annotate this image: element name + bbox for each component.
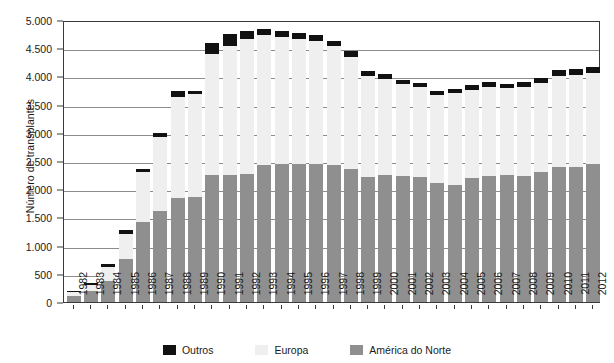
chart-legend: Outros Europa América do Norte: [0, 344, 614, 356]
bar-segment-outros: [378, 74, 392, 80]
x-tick-label-1990: 1990: [215, 272, 227, 312]
bar-segment-outros: [482, 82, 496, 87]
bar-1996: [309, 20, 323, 302]
plot-area: [63, 21, 600, 303]
bar-1989: [188, 20, 202, 302]
bar-segment-europa: [465, 90, 479, 178]
bar-segment-outros: [205, 43, 219, 54]
bar-1997: [327, 20, 341, 302]
x-tick-mark: [454, 305, 455, 309]
bar-2004: [448, 20, 462, 302]
y-tick-label: 2.000: [0, 184, 52, 196]
bar-segment-outros: [136, 169, 150, 172]
x-tick-mark: [73, 305, 74, 309]
bar-1990: [205, 20, 219, 302]
bar-segment-europa: [378, 79, 392, 175]
bar-segment-europa: [327, 46, 341, 165]
x-tick-label-1984: 1984: [111, 272, 123, 312]
x-tick-mark: [315, 305, 316, 309]
x-tick-label-1988: 1988: [181, 272, 193, 312]
x-tick-mark: [107, 305, 108, 309]
bar-segment-europa: [552, 76, 566, 167]
bar-segment-outros: [223, 34, 237, 46]
x-tick-label-1994: 1994: [285, 272, 297, 312]
bar-segment-europa: [136, 172, 150, 223]
bar-2010: [552, 20, 566, 302]
bar-segment-outros: [292, 33, 306, 39]
bar-segment-europa: [430, 95, 444, 183]
x-tick-label-1987: 1987: [163, 272, 175, 312]
bar-2007: [500, 20, 514, 302]
x-tick-mark: [384, 305, 385, 309]
bar-segment-outros: [361, 71, 375, 76]
y-tick-label: 0: [0, 297, 52, 309]
legend-item-outros: Outros: [163, 344, 214, 356]
y-tick-label: 1.500: [0, 212, 52, 224]
bar-segment-outros: [153, 133, 167, 137]
y-tick-label: 3.500: [0, 100, 52, 112]
legend-swatch-outros: [163, 345, 176, 355]
bar-segment-outros: [430, 91, 444, 95]
bar-1984: [101, 20, 115, 302]
x-tick-label-1989: 1989: [198, 272, 210, 312]
bar-segment-outros: [413, 83, 427, 88]
bar-segment-europa: [119, 234, 133, 259]
y-tick-label: 5.000: [0, 15, 52, 27]
bar-segment-europa: [188, 94, 202, 197]
bar-segment-europa: [275, 37, 289, 164]
bar-segment-outros: [552, 70, 566, 76]
bar-segment-europa: [240, 39, 254, 174]
x-tick-mark: [350, 305, 351, 309]
bar-segment-outros: [327, 41, 341, 46]
x-tick-mark: [142, 305, 143, 309]
x-tick-mark: [246, 305, 247, 309]
x-tick-label-1991: 1991: [233, 272, 245, 312]
bar-1987: [153, 20, 167, 302]
bar-2012: [586, 20, 600, 302]
bar-segment-europa: [205, 54, 219, 175]
bar-1994: [275, 20, 289, 302]
bar-segment-europa: [586, 73, 600, 164]
legend-label-outros: Outros: [182, 344, 214, 356]
bar-segment-europa: [500, 88, 514, 175]
x-tick-label-2002: 2002: [423, 272, 435, 312]
x-tick-mark: [281, 305, 282, 309]
x-tick-label-1996: 1996: [319, 272, 331, 312]
x-tick-mark: [558, 305, 559, 309]
x-tick-label-2007: 2007: [510, 272, 522, 312]
bar-2001: [396, 20, 410, 302]
x-tick-label-1985: 1985: [129, 272, 141, 312]
bar-segment-outros: [257, 29, 271, 35]
x-tick-label-2012: 2012: [596, 272, 608, 312]
bar-segment-europa: [482, 87, 496, 177]
bar-2009: [534, 20, 548, 302]
legend-swatch-america-do-norte: [350, 345, 363, 355]
bar-1991: [223, 20, 237, 302]
x-tick-mark: [159, 305, 160, 309]
x-tick-label-2009: 2009: [544, 272, 556, 312]
x-tick-label-2005: 2005: [475, 272, 487, 312]
bar-1998: [344, 20, 358, 302]
bar-1986: [136, 20, 150, 302]
x-tick-label-1992: 1992: [250, 272, 262, 312]
x-tick-label-1993: 1993: [267, 272, 279, 312]
bar-segment-outros: [101, 264, 115, 267]
x-tick-mark: [419, 305, 420, 309]
bar-2003: [430, 20, 444, 302]
bar-segment-europa: [517, 87, 531, 177]
legend-label-america-do-norte: América do Norte: [369, 344, 451, 356]
bar-segment-outros: [586, 67, 600, 73]
legend-label-europa: Europa: [274, 344, 308, 356]
x-tick-mark: [263, 305, 264, 309]
x-tick-label-2008: 2008: [527, 272, 539, 312]
x-tick-mark: [90, 305, 91, 309]
bar-segment-europa: [223, 46, 237, 175]
x-tick-label-1986: 1986: [146, 272, 158, 312]
bar-segment-outros: [396, 80, 410, 85]
bar-segment-europa: [344, 57, 358, 169]
x-tick-label-1997: 1997: [337, 272, 349, 312]
x-tick-label-1995: 1995: [302, 272, 314, 312]
bar-segment-outros: [534, 78, 548, 83]
x-tick-label-1999: 1999: [371, 272, 383, 312]
x-tick-label-2001: 2001: [406, 272, 418, 312]
